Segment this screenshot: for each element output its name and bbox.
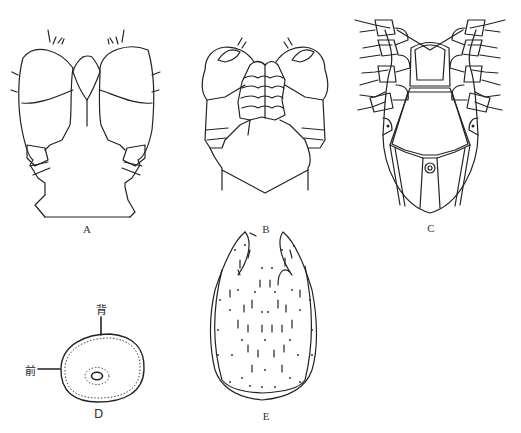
panel-label-d: D [94, 407, 103, 421]
panel-c-drawing [355, 20, 505, 213]
figure-canvas [0, 0, 521, 433]
panel-d-drawing [38, 317, 144, 402]
panel-label-c: C [427, 222, 434, 234]
annotation-anterior: 前 [25, 362, 36, 378]
setae-pattern [217, 244, 313, 388]
panel-label-b: B [262, 223, 269, 235]
panel-label-a: A [83, 223, 91, 235]
panel-e-drawing [210, 232, 316, 400]
panel-label-e: E [263, 410, 270, 422]
panel-a-drawing [11, 30, 160, 217]
panel-b-drawing [202, 38, 327, 193]
annotation-dorsal: 背 [96, 301, 107, 317]
